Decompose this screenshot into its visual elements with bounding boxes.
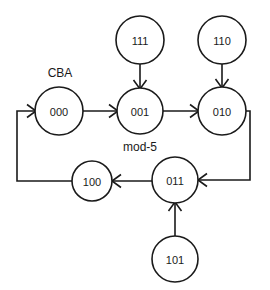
state-node-010[interactable]: 010 [198,87,246,135]
state-node-011-label: 011 [166,175,184,187]
edge-000-to-001 [83,105,118,118]
edge-110-to-010 [216,64,229,88]
annotation-cba-label: CBA [48,66,73,80]
state-node-100-label: 100 [83,176,101,188]
state-node-110[interactable]: 110 [198,16,246,64]
state-node-101[interactable]: 101 [152,236,198,282]
state-node-001-label: 001 [131,106,149,118]
state-node-010-label: 010 [213,106,231,118]
edge-111-to-001 [134,64,147,89]
state-node-110-label: 110 [213,35,231,47]
edge-101-to-011 [169,202,182,236]
edge-011-to-100 [112,175,152,188]
state-node-111-label: 111 [132,35,149,47]
state-node-101-label: 101 [166,254,184,266]
state-node-001[interactable]: 001 [117,88,163,134]
state-node-111[interactable]: 111 [116,16,164,64]
annotation-mod5-label: mod-5 [123,140,157,154]
state-node-100[interactable]: 100 [72,161,112,201]
state-diagram: 111 110 000 001 010 100 [0,0,270,290]
state-node-011[interactable]: 011 [152,157,198,203]
state-diagram-canvas: 111 110 000 001 010 100 [0,0,270,290]
edge-001-to-010 [163,105,199,118]
state-node-000[interactable]: 000 [35,87,83,135]
state-node-000-label: 000 [50,106,68,118]
